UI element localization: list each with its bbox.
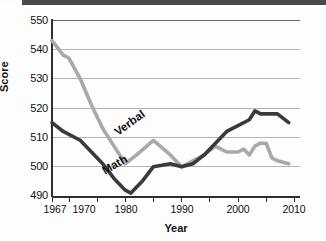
y-tick-510: 510 — [4, 131, 48, 143]
x-label-2000: 2000 — [227, 203, 250, 215]
x-label-1967: 1967 — [44, 203, 67, 215]
y-axis-tick-labels: 550 540 530 520 510 500 490 — [0, 0, 48, 241]
gridline-550 — [52, 20, 300, 21]
y-tick-500: 500 — [4, 160, 48, 172]
x-tick-1970 — [69, 197, 70, 202]
x-label-1970: 1970 — [73, 203, 96, 215]
gridline-500 — [52, 166, 300, 167]
x-tick-1985 — [153, 197, 154, 202]
gridline-540 — [52, 49, 300, 50]
x-tick-1990 — [181, 197, 182, 202]
x-label-2010: 2010 — [283, 203, 306, 215]
verbal-series-label: Verbal — [112, 108, 147, 138]
chart-figure: 550 540 530 520 510 500 490 1967 1970 19… — [0, 0, 326, 241]
y-tick-520: 520 — [4, 102, 48, 114]
x-tick-1975 — [97, 197, 98, 202]
y-tick-530: 530 — [4, 72, 48, 84]
x-label-1980: 1980 — [115, 203, 138, 215]
math-series-label: Math — [100, 153, 129, 177]
cutoff-caption — [0, 233, 326, 241]
y-axis-line — [51, 19, 53, 197]
y-tick-490: 490 — [4, 189, 48, 201]
x-label-1990: 1990 — [171, 203, 194, 215]
verbal-line — [52, 41, 289, 167]
math-line — [52, 111, 289, 193]
x-tick-1980 — [125, 197, 126, 202]
gridline-520 — [52, 108, 300, 109]
y-axis-title: Score — [0, 61, 10, 92]
x-tick-2000 — [238, 197, 239, 202]
x-axis-line — [52, 196, 300, 198]
x-tick-2005 — [266, 197, 267, 202]
page-top-gap — [0, 5, 326, 8]
x-tick-1967 — [52, 197, 53, 202]
gridline-510 — [52, 137, 300, 138]
x-tick-1995 — [209, 197, 210, 202]
x-tick-2010 — [294, 197, 295, 202]
y-tick-540: 540 — [4, 43, 48, 55]
y-tick-550: 550 — [4, 14, 48, 26]
gridline-530 — [52, 78, 300, 79]
